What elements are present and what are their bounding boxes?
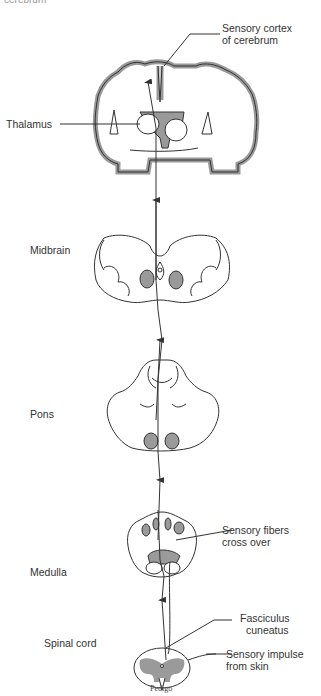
artist-signature: Pedigo <box>150 684 172 693</box>
label-sensory-cortex: Sensory cortex of cerebrum <box>222 22 292 46</box>
cerebrum-section <box>95 62 257 172</box>
sensory-pathway-diagram <box>0 0 321 696</box>
pons-section <box>107 360 219 451</box>
label-midbrain: Midbrain <box>30 244 70 256</box>
label-line-1: Fasciculus <box>240 612 290 624</box>
label-line-2: of cerebrum <box>222 34 292 46</box>
label-spinal-cord: Spinal cord <box>44 637 97 649</box>
label-medulla: Medulla <box>30 566 67 578</box>
label-fasciculus: Fasciculus cuneatus <box>240 612 290 636</box>
label-line-2: cuneatus <box>240 624 290 636</box>
midbrain-section <box>94 235 229 302</box>
label-sensory-impulse: Sensory impulse from skin <box>226 648 304 672</box>
label-line-1: Sensory fibers <box>222 524 289 536</box>
label-pons: Pons <box>30 408 54 420</box>
label-line-2: from skin <box>226 660 304 672</box>
label-line-2: cross over <box>222 536 289 548</box>
label-line-1: Sensory impulse <box>226 648 304 660</box>
label-line-1: Sensory cortex <box>222 22 292 34</box>
label-sensory-fibers: Sensory fibers cross over <box>222 524 289 548</box>
label-thalamus: Thalamus <box>6 118 52 130</box>
